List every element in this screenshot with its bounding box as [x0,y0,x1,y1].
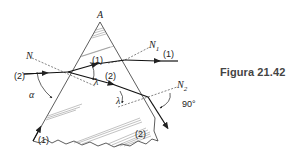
prism-refraction-diagram: A N N1 N2 (1) (1) (1) (2) (2) (2) α λ λ … [0,0,288,157]
angle-lambda-1-label: λ [93,76,99,87]
ray1-inside-label: (1) [92,55,103,65]
normal-exit-2-label: N2 [176,79,188,93]
normal-exit-1-label: N1 [148,39,159,53]
rays [24,60,178,141]
ray1-bottom-label: (1) [38,135,49,145]
ray2-inside-label: (2) [105,71,116,81]
angle-lambda-2-label: λ [115,95,121,106]
apex-label: A [96,9,104,20]
ray2-incident-label: (2) [14,71,25,81]
figure-caption: Figura 21.42 [220,66,285,78]
angle-alpha-label: α [29,89,35,100]
angle-right-label: 90° [182,99,196,109]
ray1-exit-label: (1) [163,49,174,59]
normal-entry-label: N [25,50,34,61]
ray2-exit-label: (2) [135,129,146,139]
